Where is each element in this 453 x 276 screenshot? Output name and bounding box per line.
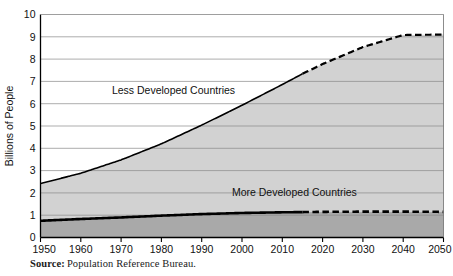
x-tick-label: 2010 — [271, 243, 295, 255]
y-tick-label: 2 — [30, 187, 36, 199]
y-tick-label: 0 — [30, 231, 36, 243]
y-axis-title: Billions of People — [3, 86, 15, 167]
source-label: Source: — [30, 258, 65, 269]
series-annotation-more-developed: More Developed Countries — [232, 186, 357, 198]
y-tick-label: 7 — [30, 75, 36, 87]
y-tick-label: 9 — [30, 31, 36, 43]
x-tick-label: 1990 — [190, 243, 214, 255]
x-tick-label: 1980 — [150, 243, 174, 255]
y-tick-label: 10 — [24, 8, 36, 20]
x-tick-label: 2040 — [392, 243, 416, 255]
x-tick-label: 1950 — [33, 243, 57, 255]
y-tick-label: 1 — [30, 209, 36, 221]
source-caption: Source:Population Reference Bureau. — [30, 258, 196, 269]
y-tick-label: 3 — [30, 164, 36, 176]
x-tick-label: 2000 — [230, 243, 254, 255]
x-tick-labels: 1950196019701980199020002010202020302040… — [33, 238, 452, 255]
y-tick-label: 6 — [30, 98, 36, 110]
population-area-chart: 0123456789101950196019701980199020002010… — [0, 0, 453, 276]
x-tick-label: 1960 — [69, 243, 93, 255]
x-tick-label: 1970 — [109, 243, 133, 255]
y-tick-label: 5 — [30, 120, 36, 132]
population-projection-figure: 0123456789101950196019701980199020002010… — [0, 0, 453, 276]
y-tick-label: 4 — [30, 142, 36, 154]
x-tick-label: 2020 — [311, 243, 335, 255]
x-tick-label: 2050 — [428, 243, 452, 255]
x-tick-label: 2030 — [351, 243, 375, 255]
y-tick-labels: 012345678910 — [24, 8, 36, 243]
y-tick-label: 8 — [30, 53, 36, 65]
series-annotation-less-developed: Less Developed Countries — [112, 84, 235, 96]
source-text: Population Reference Bureau. — [67, 258, 196, 269]
